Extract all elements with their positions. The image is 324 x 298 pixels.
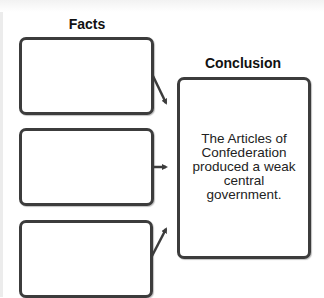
arrow-fact1-to-conclusion-icon bbox=[153, 76, 166, 103]
arrow-fact3-to-conclusion-icon bbox=[152, 229, 166, 256]
